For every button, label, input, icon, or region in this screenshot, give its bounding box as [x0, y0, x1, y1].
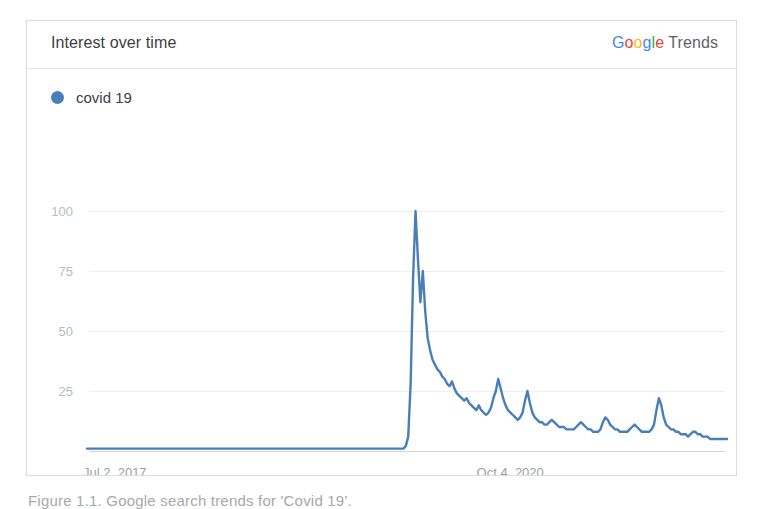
- interest-over-time-card: Interest over time GoogleTrends covid 19…: [26, 20, 737, 476]
- series-line-covid-19: [87, 211, 727, 449]
- interest-over-time-line-chart: 255075100Jul 2, 2017Oct 4, 2020: [27, 21, 736, 475]
- x-axis-tick-label: Jul 2, 2017: [83, 465, 147, 475]
- y-axis-tick-label: 100: [51, 204, 73, 219]
- x-axis-tick-label: Oct 4, 2020: [477, 465, 544, 475]
- figure-caption: Figure 1.1. Google search trends for 'Co…: [28, 492, 352, 509]
- y-axis-tick-label: 50: [59, 324, 73, 339]
- y-axis-tick-label: 75: [59, 264, 73, 279]
- y-axis-tick-label: 25: [59, 384, 73, 399]
- chart-plot-area: 255075100Jul 2, 2017Oct 4, 2020: [27, 21, 736, 475]
